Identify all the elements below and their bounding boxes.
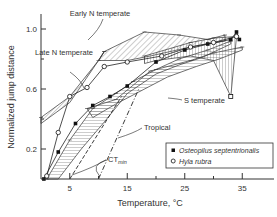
annotation-label: Late N temperate [35, 48, 93, 57]
data-point-hyla-drop [229, 95, 233, 99]
x-tick-label: 15 [123, 184, 132, 193]
legend-label-hyla: Hyla rubra [179, 158, 211, 166]
x-tick-label: 5 [68, 184, 73, 193]
annotation-leader [118, 128, 142, 138]
data-point-hyla [45, 174, 49, 178]
chart-svg: 0.20.61.0 5152535 Temperature, °C Normal… [0, 0, 277, 217]
x-tick-label: 35 [238, 184, 247, 193]
y-tick-label: 0.2 [26, 145, 38, 154]
data-point-hyla [56, 130, 60, 134]
data-point-hyla [68, 94, 72, 98]
legend-label-osteopilus: Osteopilus septentrionalis [179, 147, 260, 155]
y-axis-label: Normalized jump distance [6, 45, 16, 149]
y-tick-label: 1.0 [26, 25, 38, 34]
data-point-osteopilus [154, 60, 158, 64]
x-tick-label: 25 [180, 184, 189, 193]
data-point-hyla [234, 34, 238, 38]
annotation-label: S temperate [184, 96, 225, 105]
data-point-hyla [125, 60, 129, 64]
data-point-osteopilus [235, 30, 239, 34]
x-axis: 5152535 [41, 173, 274, 193]
data-point-osteopilus [108, 95, 112, 99]
data-point-osteopilus [56, 150, 60, 154]
y-tick-label: 0.6 [26, 85, 38, 94]
data-point-osteopilus [125, 84, 129, 88]
annotation-leader [168, 98, 182, 100]
data-point-hyla [85, 85, 89, 89]
x-axis-label: Temperature, °C [117, 198, 183, 208]
annotation-label: Tropical [144, 123, 171, 132]
data-point-osteopilus [91, 104, 95, 108]
data-point-hyla [211, 40, 215, 44]
chart-container: 0.20.61.0 5152535 Temperature, °C Normal… [0, 0, 277, 217]
annotation-label: Early N temperate [70, 9, 130, 18]
data-point-hyla [160, 54, 164, 58]
annotation-leader [96, 160, 106, 176]
annotation-label: CTmin [108, 155, 127, 165]
legend-marker-osteopilus [172, 149, 176, 153]
data-point-osteopilus [74, 122, 78, 126]
legend: Osteopilus septentrionalis Hyla rubra [166, 143, 273, 168]
data-point-hyla [188, 45, 192, 49]
data-point-hyla [102, 64, 106, 68]
y-axis: 0.20.61.0 [26, 14, 46, 179]
legend-marker-hyla [171, 159, 175, 163]
annotation-leader [88, 19, 103, 40]
annotation-leader [70, 72, 84, 88]
